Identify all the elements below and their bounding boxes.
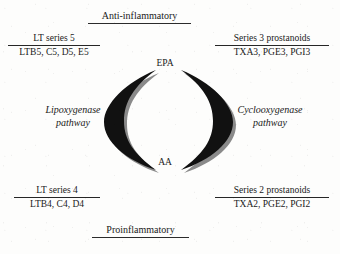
lipoxygenase-pathway-caption: Lipoxygenase pathway xyxy=(20,104,126,129)
anti-inflammatory-label: Anti-inflammatory xyxy=(88,10,191,23)
series-2-prostanoids-title: Series 2 prostanoids xyxy=(215,185,329,197)
anti-inflammatory-rule xyxy=(88,23,191,24)
cyclooxygenase-pathway-line1: Cyclooxygenase xyxy=(214,104,326,117)
lipoxygenase-pathway-line1: Lipoxygenase xyxy=(20,104,126,117)
lipoxygenase-pathway-line2: pathway xyxy=(20,117,126,130)
series-3-prostanoids-title: Series 3 prostanoids xyxy=(215,33,329,45)
lt-series-5-title: LT series 5 xyxy=(8,33,100,45)
cyclooxygenase-pathway-line2: pathway xyxy=(214,117,326,130)
product-block-series-2-prostanoids: Series 2 prostanoids TXA2, PGE2, PGI2 xyxy=(215,185,329,210)
proinflammatory-rule xyxy=(92,237,189,238)
anti-inflammatory-banner: Anti-inflammatory xyxy=(88,10,191,24)
product-block-lt-series-5: LT series 5 LTB5, C5, D5, E5 xyxy=(8,33,100,58)
product-block-lt-series-4: LT series 4 LTB4, C4, D4 xyxy=(14,185,100,210)
lt-series-4-rule xyxy=(14,197,100,198)
lt-series-4-items: LTB4, C4, D4 xyxy=(14,199,100,210)
lt-series-5-items: LTB5, C5, D5, E5 xyxy=(8,47,100,58)
cyclooxygenase-pathway-caption: Cyclooxygenase pathway xyxy=(214,104,326,129)
lt-series-5-rule xyxy=(8,45,100,46)
proinflammatory-banner: Proinflammatory xyxy=(92,224,189,238)
eicosanoid-pathway-diagram: Anti-inflammatory LT series 5 LTB5, C5, … xyxy=(0,0,340,254)
series-2-prostanoids-rule xyxy=(215,197,329,198)
lt-series-4-title: LT series 4 xyxy=(14,185,100,197)
product-block-series-3-prostanoids: Series 3 prostanoids TXA3, PGE3, PGI3 xyxy=(215,33,329,58)
series-2-prostanoids-items: TXA2, PGE2, PGI2 xyxy=(215,199,329,210)
substrate-label-aa: AA xyxy=(130,157,200,167)
series-3-prostanoids-items: TXA3, PGE3, PGI3 xyxy=(215,47,329,58)
series-3-prostanoids-rule xyxy=(215,45,329,46)
proinflammatory-label: Proinflammatory xyxy=(92,224,189,237)
